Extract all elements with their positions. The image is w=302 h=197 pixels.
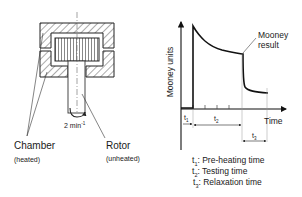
mooney-result-label: Mooney result [258, 31, 288, 51]
rotor-shaft [68, 61, 85, 113]
mooney-curve [181, 26, 268, 108]
chamber-label: Chamber [14, 141, 55, 151]
legend-item-t2: t2: Testing time [192, 167, 247, 176]
legend-item-t1: t1: Pre-heating time [192, 156, 265, 165]
rotor-label: Rotor [106, 141, 130, 151]
rotor-note: (unheated) [106, 155, 140, 162]
mooney-viscometer-diagram [0, 0, 302, 197]
y-axis-label: Mooney units [166, 47, 175, 98]
t1-label: t1 [184, 114, 188, 121]
speed-label: 2 min-1 [64, 122, 85, 129]
phase-guides [193, 54, 267, 142]
t3-label: t3 [252, 132, 256, 139]
t2-label: t2 [214, 115, 218, 122]
chamber-note: (heated) [14, 156, 40, 163]
x-axis-label: Time [264, 117, 283, 126]
legend-item-t3: t3: Relaxation time [193, 178, 262, 187]
x-ticks [193, 105, 229, 109]
